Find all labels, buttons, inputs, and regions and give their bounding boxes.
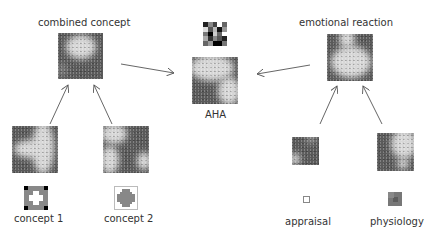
arrow-combined-to-aha xyxy=(121,64,174,73)
arrow-concept1-to-combined xyxy=(50,85,68,124)
arrow-concept2-to-combined xyxy=(94,85,112,124)
arrow-appraisal-to-emotional xyxy=(320,86,337,124)
arrow-emotional-to-aha xyxy=(257,65,310,74)
arrows xyxy=(0,0,433,240)
arrow-physiology-to-emotional xyxy=(363,86,382,124)
